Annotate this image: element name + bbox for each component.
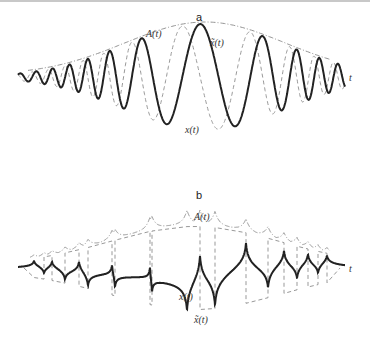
envelope-label: A(t) — [145, 28, 162, 40]
envelope-label: A(t) — [193, 211, 210, 223]
panel-b: b A(t) x(t) x̃(t) t — [18, 189, 352, 326]
axis-t-label: t — [349, 263, 352, 274]
figure: a A(t) x̃(t) x(t) t b A(t) x(t) x̃(t) t — [0, 0, 370, 339]
hilbert-label: x̃(t) — [209, 37, 225, 49]
signal-label: x(t) — [184, 124, 200, 136]
signal-label: x(t) — [178, 291, 194, 303]
hilbert-label: x̃(t) — [193, 314, 209, 326]
panel-b-label: b — [196, 189, 202, 201]
panel-a-label: a — [196, 11, 203, 23]
panel-a: a A(t) x̃(t) x(t) t — [18, 11, 352, 136]
axis-t-label: t — [349, 72, 352, 83]
